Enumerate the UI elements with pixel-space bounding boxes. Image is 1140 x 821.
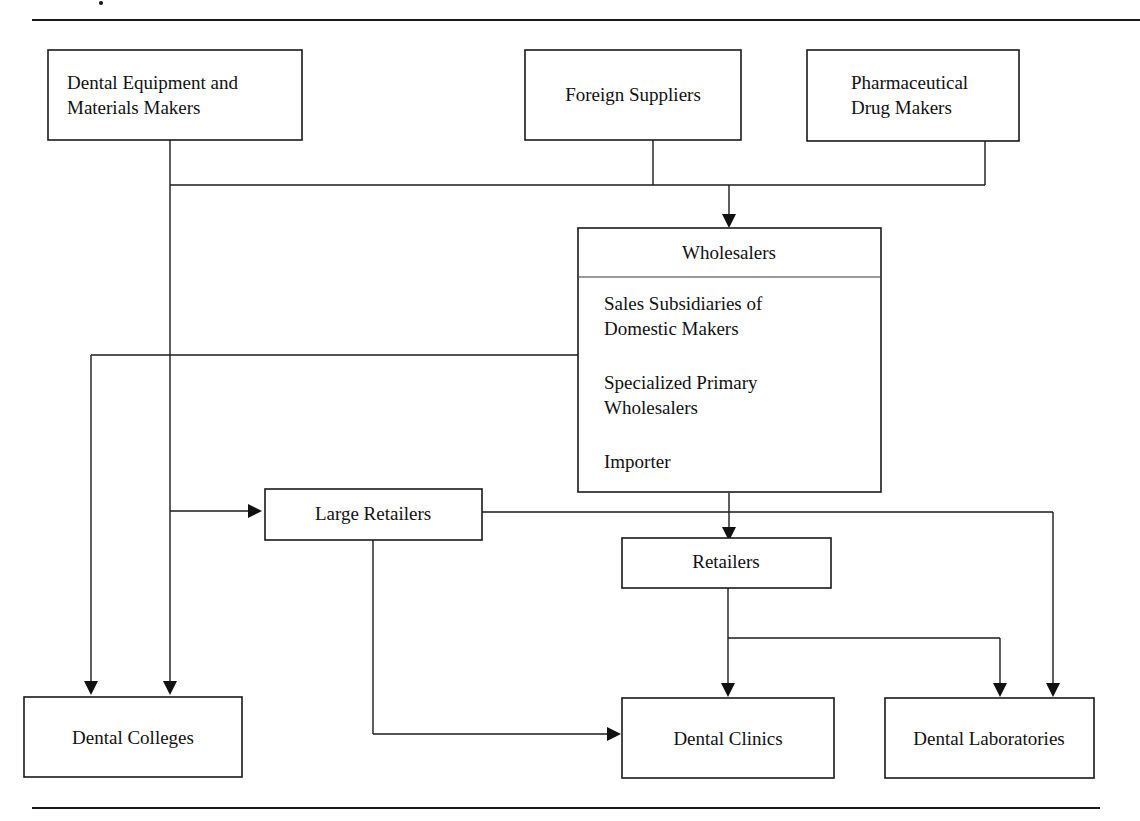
- wholesalers-header: Wholesalers: [682, 242, 776, 263]
- wholesaler-item: Sales Subsidiaries of: [604, 293, 763, 314]
- node-label: Dental Clinics: [673, 728, 782, 749]
- node-label: Retailers: [692, 551, 760, 572]
- node-label-line: Dental Equipment and: [67, 72, 238, 93]
- node-label-line: Drug Makers: [851, 97, 952, 118]
- node-wholesalers: Wholesalers Sales Subsidiaries of Domest…: [578, 228, 881, 492]
- node-retailers: Retailers: [622, 538, 831, 588]
- arrowhead-labs-2: [1046, 683, 1060, 697]
- arrowhead-clinics-left: [607, 727, 621, 741]
- node-equipment-makers: Dental Equipment and Materials Makers: [48, 50, 302, 140]
- wholesaler-item: Domestic Makers: [604, 318, 739, 339]
- arrowhead-wholesalers: [722, 214, 736, 228]
- wholesaler-item: Specialized Primary: [604, 372, 758, 393]
- wholesaler-item: Wholesalers: [604, 397, 698, 418]
- node-large-retailers: Large Retailers: [265, 489, 482, 540]
- arrowhead-colleges-1: [84, 681, 98, 695]
- node-label-line: Pharmaceutical: [851, 72, 968, 93]
- clipped-text-fragment: [99, 1, 103, 5]
- node-label-line: Materials Makers: [67, 97, 200, 118]
- node-dental-colleges: Dental Colleges: [24, 697, 242, 777]
- node-label: Foreign Suppliers: [565, 84, 701, 105]
- arrowhead-labs-1: [993, 683, 1007, 697]
- connectors: [84, 140, 1060, 741]
- node-pharma-makers: Pharmaceutical Drug Makers: [807, 50, 1019, 141]
- arrowhead-clinics-top: [721, 683, 735, 697]
- node-dental-laboratories: Dental Laboratories: [885, 698, 1094, 778]
- node-dental-clinics: Dental Clinics: [622, 698, 834, 778]
- node-label: Large Retailers: [315, 503, 431, 524]
- node-label: Dental Laboratories: [913, 728, 1064, 749]
- wholesaler-item: Importer: [604, 451, 671, 472]
- arrowhead-colleges-2: [163, 681, 177, 695]
- distribution-flow-diagram: Dental Equipment and Materials Makers Fo…: [0, 0, 1140, 821]
- node-label: Dental Colleges: [72, 727, 194, 748]
- arrowhead-large-retailers: [248, 504, 262, 518]
- node-foreign-suppliers: Foreign Suppliers: [525, 50, 741, 140]
